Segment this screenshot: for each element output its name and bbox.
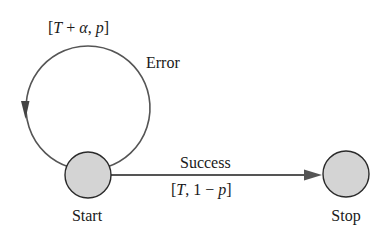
start-node	[65, 152, 111, 198]
error-annotation: [T + α, p]	[48, 19, 109, 37]
success-arrow-icon	[304, 170, 322, 181]
error-loop-edge	[26, 46, 150, 167]
start-node-label: Start	[72, 207, 103, 224]
state-diagram: [T + α, p] Error Success [T, 1 − p] Star…	[0, 0, 384, 241]
stop-node	[323, 151, 369, 197]
error-loop-arrow-icon	[21, 101, 30, 119]
success-annotation: [T, 1 − p]	[171, 181, 232, 199]
success-label: Success	[180, 154, 231, 171]
stop-node-label: Stop	[331, 207, 360, 225]
error-label: Error	[146, 54, 180, 71]
